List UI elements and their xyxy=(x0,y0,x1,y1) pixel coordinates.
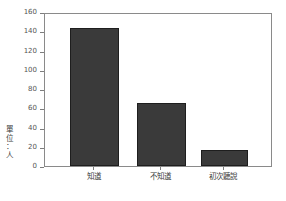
y-axis-tick-mark xyxy=(40,167,44,168)
bar-chart-figure: 單 位 ： 人 0 20 40 60 80 100 120 xyxy=(0,0,286,201)
y-axis-tick-label: 140 xyxy=(24,27,37,36)
y-axis-tick-label: 80 xyxy=(28,85,37,94)
y-axis-tick-label: 60 xyxy=(28,104,37,113)
x-axis-label-first-time-hearing: 初次聽說 xyxy=(199,172,247,182)
y-axis-title: 單 位 ： 人 xyxy=(3,126,16,160)
x-axis-tick-mark xyxy=(223,167,224,170)
y-axis-tick-label: 120 xyxy=(24,47,37,56)
y-axis-tick-label: 0 xyxy=(33,162,37,171)
bar-knows[interactable] xyxy=(70,28,119,166)
y-axis-tick-label: 20 xyxy=(28,143,37,152)
bar-does-not-know[interactable] xyxy=(137,103,186,166)
y-axis-tick-label: 160 xyxy=(24,8,37,17)
y-axis-tick-label: 40 xyxy=(28,124,37,133)
x-axis-label-does-not-know: 不知道 xyxy=(136,172,184,182)
x-axis-tick-mark xyxy=(93,167,94,170)
plot-area xyxy=(44,13,272,167)
x-axis-tick-mark xyxy=(160,167,161,170)
y-axis-tick-label: 100 xyxy=(24,66,37,75)
y-axis-title-char: 人 xyxy=(3,152,16,161)
x-axis-label-knows: 知道 xyxy=(70,172,118,182)
chart-title xyxy=(36,0,236,2)
bar-first-time-hearing[interactable] xyxy=(201,150,248,166)
